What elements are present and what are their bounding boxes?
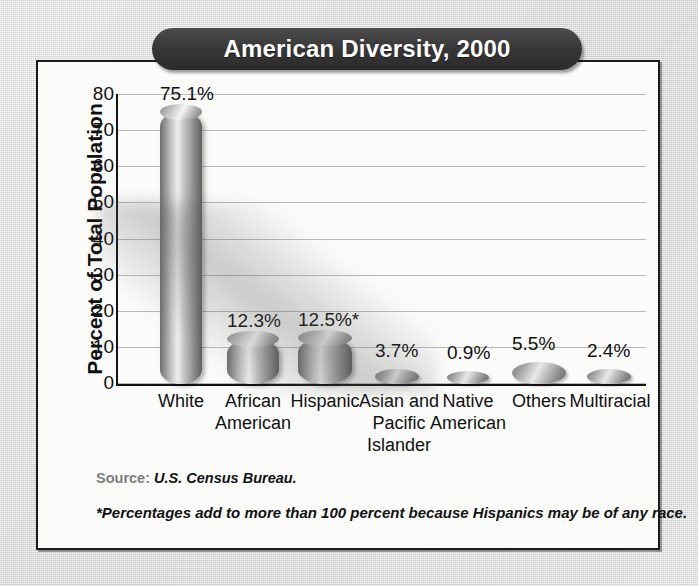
bar-african-american[interactable]: 12.3% — [227, 339, 279, 384]
title-banner: American Diversity, 2000 — [152, 28, 582, 70]
source-value: U.S. Census Bureau. — [154, 470, 297, 486]
footnote: *Percentages add to more than 100 percen… — [96, 504, 687, 521]
y-tick-label: 80 — [93, 83, 118, 105]
bar-shape: 0.9% — [447, 371, 489, 384]
y-tick-label: 70 — [93, 119, 118, 141]
bar-value-label: 0.9% — [447, 342, 490, 364]
y-tick-label: 20 — [93, 300, 118, 322]
bar-white[interactable]: 75.1% — [160, 112, 202, 384]
source-note: Source: U.S. Census Bureau. — [96, 470, 297, 486]
bar-value-label: 75.1% — [160, 83, 214, 105]
bar-value-label: 12.5%* — [298, 309, 359, 331]
bar-others[interactable]: 5.5% — [512, 362, 566, 384]
y-tick-label: 40 — [93, 228, 118, 250]
cat-label-multiracial: Multiracial — [555, 390, 665, 412]
bar-value-label: 3.7% — [375, 340, 418, 362]
y-tick-label: 60 — [93, 155, 118, 177]
bar-shape: 75.1% — [160, 112, 202, 384]
bar-shape: 12.5%* — [298, 338, 352, 384]
bar-asian-pacific-islander[interactable]: 3.7% — [375, 369, 419, 384]
bar-shape: 12.3% — [227, 339, 279, 384]
bar-value-label: 2.4% — [587, 340, 630, 362]
bar-shape: 2.4% — [587, 369, 631, 384]
y-tick-label: 30 — [93, 264, 118, 286]
bar-shape: 5.5% — [512, 362, 566, 384]
chart-title: American Diversity, 2000 — [152, 28, 582, 70]
chart-frame: Percent of Total Population 80 70 60 50 … — [36, 60, 660, 550]
bar-value-label: 12.3% — [227, 310, 281, 332]
bar-shape: 3.7% — [375, 369, 419, 384]
bar-native-american[interactable]: 0.9% — [447, 371, 489, 384]
source-label: Source: — [96, 470, 150, 486]
bar-multiracial[interactable]: 2.4% — [587, 369, 631, 384]
plot-area: 80 70 60 50 40 30 20 10 0 75.1% — [116, 94, 646, 384]
y-tick-label: 10 — [93, 336, 118, 358]
bar-value-label: 5.5% — [512, 333, 555, 355]
y-tick-label: 50 — [93, 191, 118, 213]
bar-hispanic[interactable]: 12.5%* — [298, 338, 352, 384]
